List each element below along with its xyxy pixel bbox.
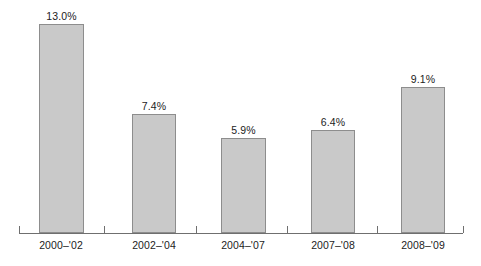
bar[interactable]	[39, 24, 84, 233]
x-axis-tick	[287, 226, 288, 233]
bar-value-label: 13.0%	[46, 10, 76, 22]
x-axis-category-label: 2004–'07	[221, 239, 265, 251]
bar-group: 13.0%	[39, 6, 84, 233]
x-axis-category-label: 2002–'04	[132, 239, 176, 251]
x-axis-tick	[377, 226, 378, 233]
bar-value-label: 6.4%	[321, 116, 345, 128]
bar-value-label: 5.9%	[231, 124, 255, 136]
x-axis-tick	[104, 226, 105, 233]
x-axis-tick	[19, 226, 20, 233]
bar-group: 6.4%	[311, 112, 355, 233]
bar[interactable]	[132, 114, 176, 233]
bar-chart: 13.0%7.4%5.9%6.4%9.1% 2000–'022002–'0420…	[0, 0, 481, 266]
bar[interactable]	[311, 130, 355, 233]
bar-value-label: 7.4%	[142, 100, 166, 112]
bar-group: 9.1%	[401, 69, 445, 233]
bar-group: 7.4%	[132, 96, 176, 233]
bar-group: 5.9%	[221, 120, 266, 233]
bar-value-label: 9.1%	[411, 73, 435, 85]
bar[interactable]	[401, 87, 445, 233]
x-axis-tick	[196, 226, 197, 233]
x-axis-category-label: 2000–'02	[39, 239, 83, 251]
bar[interactable]	[221, 138, 266, 233]
x-axis-tick	[463, 226, 464, 233]
x-axis-line	[19, 233, 463, 234]
x-axis-category-label: 2008–'09	[401, 239, 445, 251]
x-axis-category-label: 2007–'08	[311, 239, 355, 251]
plot-area: 13.0%7.4%5.9%6.4%9.1%	[0, 0, 481, 233]
